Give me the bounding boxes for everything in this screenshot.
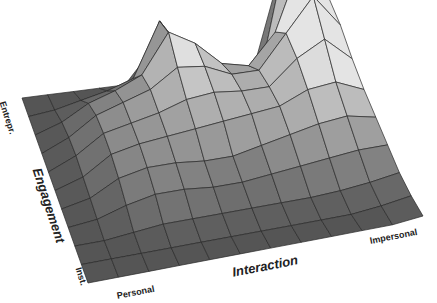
surface-plot bbox=[0, 0, 437, 303]
surface-mesh bbox=[22, 0, 423, 283]
